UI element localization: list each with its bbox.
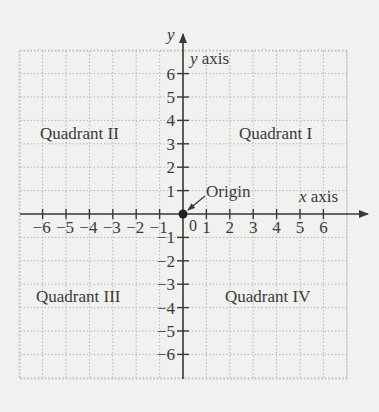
x-tick-label: −2: [126, 218, 144, 237]
y-tick-label: −6: [157, 345, 175, 364]
quadrant-ii-label: Quadrant II: [40, 124, 119, 143]
x-tick-label: 2: [226, 218, 235, 237]
y-tick-label: 2: [167, 158, 176, 177]
y-var-label: y: [165, 25, 175, 44]
coordinate-plane: −6−5−4−3−2−1123456654321−1−2−3−4−5−60 Or…: [0, 0, 379, 412]
y-tick-label: 3: [167, 135, 176, 154]
x-tick-label: −4: [79, 218, 98, 237]
y-tick-label: −5: [157, 322, 175, 341]
x-axis-label: x axis: [298, 187, 338, 206]
y-axis-word: axis: [198, 49, 230, 68]
x-tick-label: 4: [272, 218, 281, 237]
quadrant-iii-label: Quadrant III: [36, 287, 121, 306]
y-tick-label: 5: [167, 88, 176, 107]
x-tick-label: 6: [319, 218, 328, 237]
y-tick-label: 1: [167, 182, 176, 201]
y-tick-label: 6: [167, 65, 176, 84]
x-tick-label: −3: [103, 218, 121, 237]
y-axis-var: y: [188, 49, 198, 68]
y-axis-label: y axis: [188, 49, 229, 68]
x-tick-label: 1: [202, 218, 211, 237]
y-tick-label: −3: [157, 275, 175, 294]
y-tick-label: −2: [157, 252, 175, 271]
x-tick-label: −6: [33, 218, 51, 237]
y-tick-label: −1: [157, 228, 175, 247]
origin-arrow: [188, 196, 205, 210]
quadrant-i-label: Quadrant I: [239, 124, 313, 143]
origin-label: Origin: [206, 182, 251, 201]
quadrant-iv-label: Quadrant IV: [225, 287, 311, 306]
y-tick-label: 4: [167, 111, 176, 130]
x-tick-label: 5: [296, 218, 305, 237]
x-tick-label: 3: [249, 218, 258, 237]
x-axis-word: axis: [307, 187, 339, 206]
y-tick-label: −4: [157, 299, 176, 318]
x-tick-label: −5: [56, 218, 74, 237]
origin-point: [179, 210, 188, 219]
zero-label: 0: [189, 217, 197, 234]
